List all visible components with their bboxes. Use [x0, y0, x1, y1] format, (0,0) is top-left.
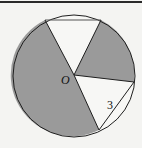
center-label: O [61, 73, 70, 87]
circle-diagram: O 3 [0, 0, 142, 148]
chord-length-label: 3 [107, 98, 113, 112]
